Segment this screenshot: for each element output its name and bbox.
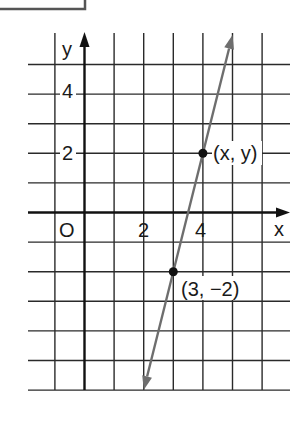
y-axis-label: y — [62, 38, 72, 60]
line-arrow-down-icon — [142, 375, 152, 390]
x-tick-label-2: 2 — [138, 219, 149, 241]
y-tick-label-4: 4 — [62, 80, 73, 102]
y-axis-arrow-icon — [80, 32, 90, 47]
y-tick-label-2: 2 — [62, 142, 73, 164]
point-marker — [169, 267, 178, 276]
point-label-3-neg2: (3, −2) — [181, 278, 239, 300]
line-arrow-up-icon — [224, 35, 234, 50]
x-tick-label-4: 4 — [195, 219, 206, 241]
x-axis-label: x — [274, 218, 284, 240]
partial-box-frame — [0, 0, 85, 9]
point-label-x-y: (x, y) — [213, 142, 257, 164]
origin-label: O — [59, 219, 75, 241]
point-marker — [198, 149, 207, 158]
coordinate-graph: y x O 2 4 4 2 (x, y) (3, −2) — [0, 0, 303, 426]
x-axis-arrow-icon — [276, 208, 290, 218]
